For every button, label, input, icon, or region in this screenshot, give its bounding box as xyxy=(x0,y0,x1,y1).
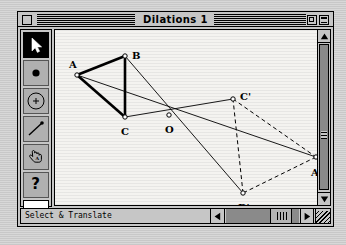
image-triangle-edges xyxy=(233,99,316,193)
vertex-label-C: C xyxy=(121,127,129,137)
hand-text-tool[interactable]: A xyxy=(23,144,49,170)
arrow-pointer-icon xyxy=(30,37,43,53)
edge-Bp-Cp[interactable] xyxy=(233,99,243,193)
scroll-down-arrow-icon[interactable] xyxy=(318,192,330,205)
application-window: Dilations 1 xyxy=(17,11,334,227)
vertex-Bp[interactable] xyxy=(241,191,245,195)
line-segment-icon xyxy=(26,119,46,139)
horizontal-scrollbar-track[interactable] xyxy=(226,209,299,223)
question-mark-icon: ? xyxy=(28,176,44,194)
collapse-box-icon[interactable] xyxy=(319,15,329,25)
horizontal-scrollbar-thumb[interactable] xyxy=(270,209,292,223)
segment-tool[interactable] xyxy=(23,116,49,142)
dilation-figure xyxy=(55,30,317,205)
vertex-label-O: O xyxy=(165,125,174,135)
pointing-hand-icon: A xyxy=(27,148,45,166)
vertex-Cp[interactable] xyxy=(231,97,235,101)
ray-C-Cp[interactable] xyxy=(125,99,233,117)
figure-vertices xyxy=(75,54,317,195)
vertex-label-B: B xyxy=(132,51,140,61)
geometry-canvas-frame: ABCOC'A'B' xyxy=(54,29,331,206)
svg-text:A: A xyxy=(35,156,40,161)
vertex-A[interactable] xyxy=(75,73,79,77)
scroll-left-arrow-icon[interactable] xyxy=(211,209,225,223)
zoom-box-icon[interactable] xyxy=(307,15,317,25)
thumb-grip-lines xyxy=(277,212,287,220)
window-resize-grow-box[interactable] xyxy=(315,209,330,223)
scroll-right-arrow-icon[interactable] xyxy=(300,209,314,223)
edge-Cp-Ap[interactable] xyxy=(233,99,316,157)
vertex-C[interactable] xyxy=(123,115,127,119)
filled-dot-icon xyxy=(28,65,44,81)
mode-status-label: Select & Translate xyxy=(25,209,112,223)
dilation-rays xyxy=(77,56,316,193)
circle-tool[interactable] xyxy=(23,88,49,114)
geometry-canvas[interactable]: ABCOC'A'B' xyxy=(55,30,317,205)
scroll-up-arrow-icon[interactable] xyxy=(318,30,330,43)
svg-text:?: ? xyxy=(31,176,40,193)
preimage-triangle-edges xyxy=(77,56,125,117)
window-title-bar[interactable]: Dilations 1 xyxy=(18,12,333,27)
vertex-label-Bp: B' xyxy=(238,203,250,205)
vertical-scrollbar-thumb[interactable] xyxy=(319,44,329,190)
horizontal-scrollbar[interactable] xyxy=(210,209,330,223)
ray-B-Bp[interactable] xyxy=(125,56,243,193)
close-box-icon[interactable] xyxy=(22,15,32,25)
tool-palette: A ? xyxy=(20,29,52,207)
ray-A-Ap[interactable] xyxy=(77,75,316,157)
vertex-O[interactable] xyxy=(167,113,171,117)
window-title-label: Dilations 1 xyxy=(138,14,213,25)
vertical-scrollbar[interactable] xyxy=(317,30,330,205)
status-bar: Select & Translate xyxy=(20,208,331,224)
vertex-B[interactable] xyxy=(123,54,127,58)
thumb-grip-lines xyxy=(321,131,327,139)
edge-C-A[interactable] xyxy=(77,75,125,117)
point-tool[interactable] xyxy=(23,60,49,86)
edge-Ap-Bp[interactable] xyxy=(243,157,316,193)
vertex-label-Cp: C' xyxy=(240,92,251,102)
vertex-label-A: A xyxy=(69,60,77,70)
edge-A-B[interactable] xyxy=(77,56,125,75)
window-title: Dilations 1 xyxy=(18,12,333,27)
circle-with-center-icon xyxy=(26,91,46,111)
info-tool[interactable]: ? xyxy=(23,172,49,198)
arrow-select-tool[interactable] xyxy=(23,32,49,58)
